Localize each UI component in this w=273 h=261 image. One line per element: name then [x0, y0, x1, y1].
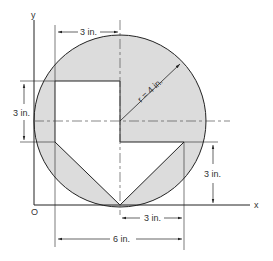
right-height-label: 3 in.: [204, 169, 221, 179]
bottom-half-label: 3 in.: [144, 213, 161, 223]
composite-area-diagram: y x O r = 4 in. 3 in. 3 in. 3 in. 3 in. …: [0, 0, 273, 261]
y-axis-label: y: [31, 10, 36, 20]
bottom-full-label: 6 in.: [113, 234, 130, 244]
left-height-label: 3 in.: [13, 108, 30, 118]
x-axis-label: x: [254, 200, 259, 210]
origin-label: O: [31, 207, 38, 217]
top-width-label: 3 in.: [80, 27, 97, 37]
